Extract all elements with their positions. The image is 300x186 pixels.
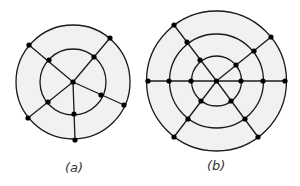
graph-vertex bbox=[197, 57, 202, 62]
figure-b-concentric-graph bbox=[145, 11, 287, 151]
graph-vertex bbox=[46, 57, 51, 62]
graph-vertex bbox=[166, 78, 171, 83]
graph-vertex bbox=[282, 78, 287, 83]
graph-vertex bbox=[188, 78, 193, 83]
graph-vertex bbox=[25, 115, 30, 120]
graph-vertex bbox=[70, 79, 75, 84]
figure-b-label: (b) bbox=[207, 158, 225, 173]
graph-vertex bbox=[198, 98, 203, 103]
graph-vertex bbox=[72, 137, 77, 142]
graph-vertex bbox=[171, 134, 176, 139]
graph-vertex bbox=[185, 116, 190, 121]
graph-vertex bbox=[184, 39, 189, 44]
graph-vertex bbox=[121, 102, 126, 107]
graph-vertex bbox=[98, 92, 103, 97]
graph-vertex bbox=[268, 34, 273, 39]
figure-a-label: (a) bbox=[65, 160, 83, 175]
graph-vertex bbox=[91, 54, 96, 59]
graph-vertex bbox=[255, 134, 260, 139]
graph-vertex bbox=[238, 78, 243, 83]
graph-vertex bbox=[145, 78, 150, 83]
graph-vertex bbox=[171, 22, 176, 27]
graph-vertex bbox=[242, 116, 247, 121]
graph-vertex bbox=[214, 78, 219, 83]
figure-a-concentric-graph bbox=[16, 25, 130, 143]
graph-vertex bbox=[26, 42, 31, 47]
graph-vertex bbox=[251, 48, 256, 53]
graph-vertex bbox=[233, 62, 238, 67]
graph-vertex bbox=[228, 98, 233, 103]
graph-vertex bbox=[71, 111, 76, 116]
graph-vertex bbox=[260, 78, 265, 83]
diagram-canvas bbox=[0, 0, 300, 186]
graph-vertex bbox=[107, 35, 112, 40]
graph-vertex bbox=[45, 99, 50, 104]
